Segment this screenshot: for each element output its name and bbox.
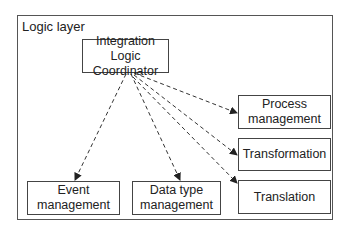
node-label-line1: Data type: [140, 183, 213, 198]
node-label-line2: management: [140, 198, 213, 213]
node-label-line1: Integration Logic: [83, 34, 168, 64]
node-label-line2: Coordinator: [83, 64, 168, 79]
edge-to-process: [134, 73, 237, 113]
node-label-line1: Event: [37, 183, 110, 198]
node-transformation: Transformation: [238, 138, 331, 171]
node-integration-logic-coordinator: Integration Logic Coordinator: [82, 39, 169, 73]
node-label-line2: management: [37, 198, 110, 213]
node-label: Translation: [254, 190, 315, 205]
node-data-type-management: Data type management: [132, 181, 221, 215]
node-event-management: Event management: [27, 181, 120, 215]
edge-to-translation: [133, 77, 237, 183]
node-label: Transformation: [243, 147, 327, 162]
node-translation: Translation: [238, 180, 331, 214]
edge-to-event: [75, 74, 126, 180]
node-label-line2: management: [248, 112, 321, 127]
edge-to-datatype: [131, 74, 180, 180]
node-label-line1: Process: [248, 97, 321, 112]
node-process-management: Process management: [238, 95, 331, 129]
